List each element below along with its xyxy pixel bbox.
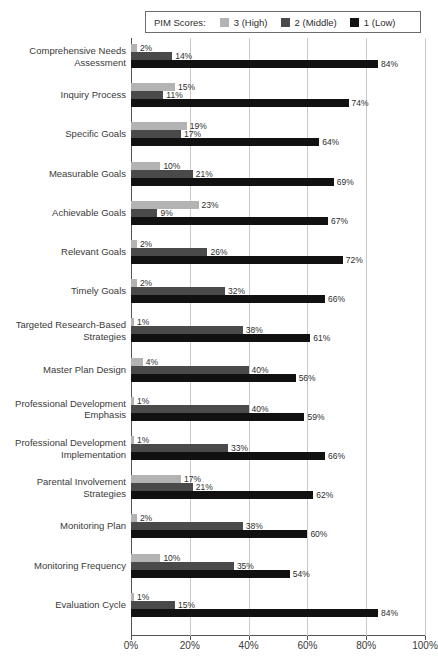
- bar-row: 10%: [131, 554, 425, 562]
- category-label: Achievable Goals: [1, 207, 126, 219]
- bar: [131, 295, 325, 303]
- bar: [131, 366, 249, 374]
- bar-group: 23%9%67%: [131, 201, 425, 225]
- bar: [131, 452, 325, 460]
- bar-value-label: 66%: [325, 451, 345, 461]
- bar: [131, 162, 160, 170]
- bar-row: 1%: [131, 436, 425, 444]
- bar: [131, 554, 160, 562]
- bar-row: 2%: [131, 279, 425, 287]
- bar: [131, 601, 175, 609]
- bar: [131, 99, 349, 107]
- x-tick-label: 80%: [356, 640, 376, 651]
- bar-group: 10%35%54%: [131, 554, 425, 578]
- bar-group: 4%40%56%: [131, 358, 425, 382]
- bar-row: 11%: [131, 91, 425, 99]
- legend-entry-low: 1 (Low): [350, 17, 396, 28]
- bar-row: 54%: [131, 570, 425, 578]
- bar-row: 69%: [131, 178, 425, 186]
- bar-row: 21%: [131, 170, 425, 178]
- bar-row: 17%: [131, 475, 425, 483]
- bar-group: 17%21%62%: [131, 475, 425, 499]
- bar: [131, 138, 319, 146]
- legend-swatch-low: [350, 18, 359, 27]
- legend-entry-high: 3 (High): [220, 17, 268, 28]
- bar-row: 66%: [131, 452, 425, 460]
- bar-row: 2%: [131, 514, 425, 522]
- bar-row: 21%: [131, 483, 425, 491]
- bar-row: 35%: [131, 562, 425, 570]
- bar: [131, 358, 143, 366]
- bar-group: 2%14%84%: [131, 44, 425, 68]
- bar-group: 2%26%72%: [131, 240, 425, 264]
- bar-row: 59%: [131, 413, 425, 421]
- x-tick-label: 40%: [239, 640, 259, 651]
- bar-row: 1%: [131, 397, 425, 405]
- category-label: Evaluation Cycle: [1, 599, 126, 611]
- bar: [131, 326, 243, 334]
- bar-group: 1%38%61%: [131, 318, 425, 342]
- bar-group: 1%40%59%: [131, 397, 425, 421]
- bar-row: 19%: [131, 122, 425, 130]
- x-axis-tick-labels: 0%20%40%60%80%100%: [131, 640, 425, 656]
- bar-row: 72%: [131, 256, 425, 264]
- bar-value-label: 61%: [310, 333, 330, 343]
- bar-row: 38%: [131, 522, 425, 530]
- bar-row: 1%: [131, 318, 425, 326]
- bar: [131, 209, 157, 217]
- bar-value-label: 54%: [290, 569, 310, 579]
- category-label: Specific Goals: [1, 129, 126, 141]
- bar-value-label: 60%: [307, 529, 327, 539]
- bar-row: 84%: [131, 60, 425, 68]
- bar-row: 62%: [131, 491, 425, 499]
- bar: [131, 444, 228, 452]
- bar: [131, 217, 328, 225]
- bar: [131, 609, 378, 617]
- bar-value-label: 66%: [325, 294, 345, 304]
- bar: [131, 413, 304, 421]
- bar-row: 40%: [131, 366, 425, 374]
- legend-swatch-middle: [281, 18, 290, 27]
- bar-row: 66%: [131, 295, 425, 303]
- bar: [131, 522, 243, 530]
- bar: [131, 334, 310, 342]
- category-label: Master Plan Design: [1, 364, 126, 376]
- category-label: Comprehensive NeedsAssessment: [1, 45, 126, 68]
- bar-value-label: 74%: [349, 98, 369, 108]
- bar-row: 32%: [131, 287, 425, 295]
- legend-title: PIM Scores:: [154, 17, 206, 28]
- bar-row: 2%: [131, 240, 425, 248]
- category-label: Inquiry Process: [1, 89, 126, 101]
- category-label: Timely Goals: [1, 285, 126, 297]
- bar: [131, 570, 290, 578]
- bar-row: 38%: [131, 326, 425, 334]
- bar: [131, 562, 234, 570]
- legend-entry-middle: 2 (Middle): [281, 17, 337, 28]
- legend-label-high: 3 (High): [234, 17, 268, 28]
- x-tick-label: 100%: [412, 640, 438, 651]
- bar-value-label: 62%: [313, 490, 333, 500]
- bar: [131, 130, 181, 138]
- bar-row: 84%: [131, 609, 425, 617]
- bar: [131, 178, 334, 186]
- bar: [131, 170, 193, 178]
- bar-row: 26%: [131, 248, 425, 256]
- bar-row: 60%: [131, 530, 425, 538]
- bar-row: 64%: [131, 138, 425, 146]
- chart-legend: PIM Scores: 3 (High) 2 (Middle) 1 (Low): [145, 11, 421, 33]
- x-tick-label: 20%: [180, 640, 200, 651]
- bar: [131, 530, 307, 538]
- bar: [131, 483, 193, 491]
- bar-group: 10%21%69%: [131, 162, 425, 186]
- bar-value-label: 67%: [328, 216, 348, 226]
- bar-row: 67%: [131, 217, 425, 225]
- legend-swatch-high: [220, 18, 229, 27]
- category-label: Targeted Research-BasedStrategies: [1, 319, 126, 342]
- category-label: Monitoring Plan: [1, 521, 126, 533]
- bar-row: 74%: [131, 99, 425, 107]
- legend-label-low: 1 (Low): [364, 17, 396, 28]
- bar: [131, 475, 181, 483]
- bar-row: 61%: [131, 334, 425, 342]
- bar-value-label: 64%: [319, 137, 339, 147]
- bar-row: 33%: [131, 444, 425, 452]
